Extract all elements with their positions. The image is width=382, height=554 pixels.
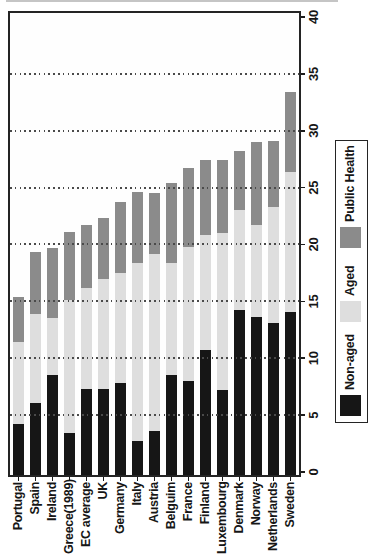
- bar-segment-aged: [251, 225, 262, 317]
- bar-segment-aged: [149, 254, 160, 431]
- bar-segment-non-aged: [285, 312, 296, 475]
- category-label: EC average: [79, 482, 94, 554]
- value-axis-tick: [301, 187, 305, 189]
- category-tick: [256, 477, 258, 481]
- value-axis-tick-label: 35: [306, 57, 321, 91]
- bar-segment-aged: [285, 172, 296, 312]
- bar-segment-aged: [217, 233, 228, 390]
- page: { "figure": { "note_rotation": "figure r…: [0, 0, 382, 554]
- category-label: Austria: [147, 482, 162, 554]
- bar-segment-non-aged: [251, 317, 262, 475]
- value-axis-tick-label: 5: [306, 398, 321, 432]
- category-tick: [86, 477, 88, 481]
- chart-canvas: Non-agedAgedPublic Health PortugalSpainI…: [0, 0, 382, 554]
- bar-segment-public-health: [200, 160, 211, 235]
- category-tick: [103, 477, 105, 481]
- bar-segment-public-health: [132, 192, 143, 263]
- gridline: [10, 244, 299, 246]
- value-axis-tick: [301, 244, 305, 246]
- category-label: Denmark: [232, 482, 247, 554]
- category-tick: [188, 477, 190, 481]
- bar-segment-aged: [47, 318, 58, 375]
- gridline: [10, 300, 299, 302]
- value-axis-tick: [301, 130, 305, 132]
- bar-segment-aged: [268, 207, 279, 323]
- value-axis-tick-label: 40: [306, 0, 321, 34]
- bar-segment-non-aged: [149, 431, 160, 475]
- gridline: [10, 130, 299, 132]
- legend-label: Aged: [343, 266, 357, 296]
- gridline: [10, 357, 299, 359]
- bar-segment-non-aged: [81, 389, 92, 475]
- category-label: Finland: [198, 482, 213, 554]
- value-axis-tick: [301, 414, 305, 416]
- category-tick: [239, 477, 241, 481]
- bar-segment-public-health: [47, 248, 58, 319]
- category-tick: [52, 477, 54, 481]
- legend-swatch-non-aged: [340, 395, 361, 416]
- category-tick: [120, 477, 122, 481]
- category-tick: [154, 477, 156, 481]
- bar-segment-aged: [13, 342, 24, 424]
- category-tick: [171, 477, 173, 481]
- category-label: Spain: [28, 482, 43, 554]
- category-label: Ireland: [45, 482, 60, 554]
- bar-segment-public-health: [217, 160, 228, 233]
- bar-segment-non-aged: [132, 441, 143, 475]
- bar-segment-public-health: [234, 151, 245, 210]
- bar-segment-public-health: [251, 142, 262, 225]
- category-label: Italy: [130, 482, 145, 554]
- category-tick: [35, 477, 37, 481]
- category-label: France: [181, 482, 196, 554]
- bar-segment-non-aged: [200, 350, 211, 475]
- bar-segment-non-aged: [98, 389, 109, 475]
- bar-segment-non-aged: [115, 383, 126, 475]
- bar-segment-non-aged: [13, 424, 24, 475]
- value-axis-tick-label: 10: [306, 341, 321, 375]
- value-axis-tick: [301, 301, 305, 303]
- category-tick: [18, 477, 20, 481]
- value-axis-tick: [301, 73, 305, 75]
- bar-segment-non-aged: [64, 433, 75, 475]
- bar-segment-aged: [98, 279, 109, 389]
- category-label: Netherlands: [266, 482, 281, 554]
- category-label: Luxembourg: [215, 482, 230, 554]
- value-axis-tick-label: 15: [306, 284, 321, 318]
- gridline: [10, 187, 299, 189]
- gridline: [10, 73, 299, 75]
- bar-segment-aged: [81, 288, 92, 389]
- bar-segment-non-aged: [234, 310, 245, 475]
- bar-segment-public-health: [64, 232, 75, 300]
- bar-segment-public-health: [81, 225, 92, 288]
- bar-segment-non-aged: [268, 323, 279, 475]
- bar-segment-public-health: [285, 92, 296, 172]
- bar-segment-aged: [200, 235, 211, 350]
- bar-segment-public-health: [166, 183, 177, 263]
- value-axis-tick: [301, 357, 305, 359]
- category-tick: [273, 477, 275, 481]
- legend-label: Public Health: [343, 145, 357, 222]
- legend-swatch-aged: [340, 301, 361, 322]
- value-axis-tick: [301, 471, 305, 473]
- value-axis-tick-label: 25: [306, 171, 321, 205]
- legend-swatch-public-health: [340, 227, 361, 248]
- legend-label: Non-aged: [343, 334, 357, 390]
- category-label: Sweden: [283, 482, 298, 554]
- bar-segment-public-health: [13, 297, 24, 343]
- category-tick: [205, 477, 207, 481]
- bar-segment-non-aged: [47, 375, 58, 475]
- bar-segment-aged: [234, 210, 245, 310]
- value-axis-tick-label: 0: [306, 455, 321, 489]
- value-axis-tick-label: 30: [306, 114, 321, 148]
- category-label: Greece(1989): [62, 482, 77, 554]
- bar-segment-public-health: [115, 202, 126, 273]
- bar-segment-non-aged: [166, 375, 177, 475]
- bar-segment-public-health: [30, 252, 41, 313]
- bar-segment-aged: [115, 273, 126, 383]
- category-label: UK: [96, 482, 111, 554]
- gridline: [10, 414, 299, 416]
- bar-segment-public-health: [98, 218, 109, 278]
- category-label: Portugal: [11, 482, 26, 554]
- category-tick: [290, 477, 292, 481]
- bar-segment-aged: [183, 247, 194, 381]
